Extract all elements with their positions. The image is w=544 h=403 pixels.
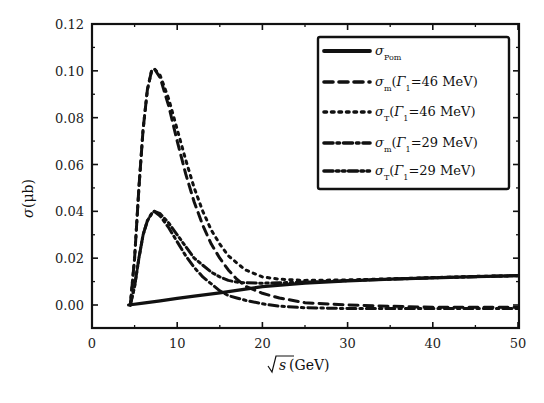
y-axis-title: σ (μb) [20, 179, 36, 218]
y-tick-label: 0.02 [55, 251, 84, 266]
x-tick-label: 30 [339, 336, 356, 351]
x-axis-title-var: s [279, 357, 286, 373]
y-axis-title-var: σ [20, 208, 36, 218]
x-axis-title-unit: (GeV) [289, 357, 330, 373]
y-tick-label: 0.00 [55, 298, 84, 313]
y-tick-label: 0.04 [55, 204, 84, 219]
legend: σPomσm(Γ1=46 MeV)σT(Γ1=46 MeV)σm(Γ1=29 M… [318, 37, 509, 189]
line-chart: 0.000.020.040.060.080.100.12 01020304050… [0, 0, 544, 403]
x-axis-title: s (GeV) [268, 356, 330, 373]
x-tick-label: 20 [254, 336, 271, 351]
x-tick-label: 40 [425, 336, 442, 351]
y-tick-label: 0.12 [55, 17, 84, 32]
x-tick-label: 10 [169, 336, 186, 351]
y-tick-label: 0.06 [55, 158, 84, 173]
y-axis-title-unit: (μb) [20, 179, 36, 208]
series-line-3 [130, 211, 518, 308]
x-tick-label: 50 [510, 336, 527, 351]
x-tick-label: 0 [88, 336, 96, 351]
y-tick-label: 0.10 [55, 64, 84, 79]
y-tick-label: 0.08 [55, 111, 84, 126]
